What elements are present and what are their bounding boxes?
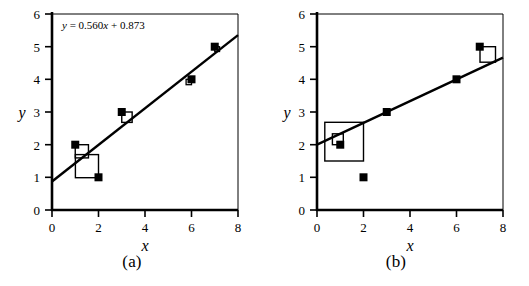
panel-b: 0 1 2 3 4 5 6 0 2 4 6 8 x y bbox=[264, 0, 528, 286]
y-tick-label-5: 5 bbox=[34, 40, 41, 55]
panel-a-caption: (a) bbox=[0, 252, 264, 272]
y-axis-title: y bbox=[281, 104, 291, 122]
x-tick-label-4: 8 bbox=[500, 220, 507, 235]
panel-b-plot: 0 1 2 3 4 5 6 0 2 4 6 8 x y bbox=[264, 0, 528, 252]
panel-a-plot: 0 1 2 3 4 5 6 0 2 4 6 8 x y y = 0.560x +… bbox=[0, 0, 264, 252]
y-tick-label-2: 2 bbox=[34, 138, 41, 153]
x-tick-label-1: 2 bbox=[95, 220, 102, 235]
y-tick-label-4: 4 bbox=[34, 72, 41, 87]
x-tick-label-3: 6 bbox=[188, 220, 195, 235]
data-point-markers bbox=[71, 43, 219, 182]
x-axis-title: x bbox=[140, 237, 148, 252]
x-tick-label-0: 0 bbox=[49, 220, 56, 235]
y-tick-label-2: 2 bbox=[299, 138, 306, 153]
x-tick-label-1: 2 bbox=[360, 220, 367, 235]
data-point-marker bbox=[71, 141, 79, 149]
data-point-marker bbox=[360, 173, 368, 181]
figure-container: 0 1 2 3 4 5 6 0 2 4 6 8 x y y = 0.560x +… bbox=[0, 0, 529, 286]
data-point-marker bbox=[188, 75, 196, 83]
y-tick-label-3: 3 bbox=[34, 105, 41, 120]
y-tick-label-6: 6 bbox=[299, 7, 306, 22]
y-axis-title: y bbox=[16, 104, 26, 122]
data-point-marker bbox=[476, 43, 484, 51]
x-tick-label-4: 8 bbox=[235, 220, 242, 235]
x-axis-title: x bbox=[405, 237, 413, 252]
y-tick-label-0: 0 bbox=[34, 203, 41, 218]
x-tick-label-3: 6 bbox=[453, 220, 460, 235]
data-point-marker bbox=[211, 43, 219, 51]
y-tick-label-5: 5 bbox=[299, 40, 306, 55]
data-point-marker bbox=[95, 173, 103, 181]
data-point-marker bbox=[336, 141, 344, 149]
regression-equation-label: y = 0.560x + 0.873 bbox=[61, 19, 145, 31]
data-point-marker bbox=[383, 108, 391, 116]
data-point-marker bbox=[453, 75, 461, 83]
reference-line bbox=[317, 58, 503, 145]
x-tick-label-0: 0 bbox=[314, 220, 321, 235]
panel-a: 0 1 2 3 4 5 6 0 2 4 6 8 x y y = 0.560x +… bbox=[0, 0, 264, 286]
y-tick-label-4: 4 bbox=[299, 72, 306, 87]
y-tick-label-0: 0 bbox=[299, 203, 306, 218]
y-tick-label-1: 1 bbox=[299, 170, 306, 185]
y-tick-label-6: 6 bbox=[34, 7, 41, 22]
y-tick-label-1: 1 bbox=[34, 170, 41, 185]
data-point-marker bbox=[118, 108, 126, 116]
regression-line bbox=[52, 35, 238, 181]
y-tick-label-3: 3 bbox=[299, 105, 306, 120]
panel-b-caption: (b) bbox=[264, 252, 528, 272]
x-tick-label-2: 4 bbox=[407, 220, 414, 235]
x-tick-label-2: 4 bbox=[142, 220, 149, 235]
